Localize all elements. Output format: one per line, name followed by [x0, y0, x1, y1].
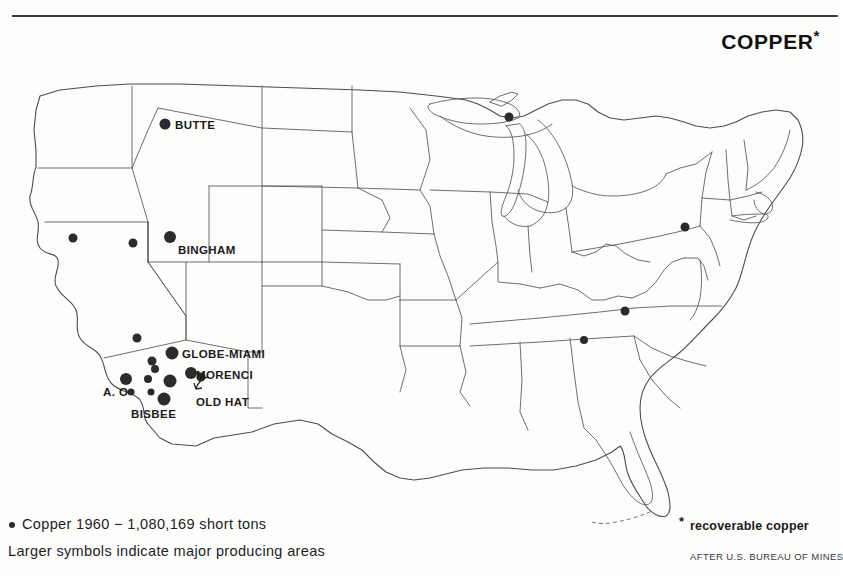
arizona-small-mine-2-symbol[interactable] — [148, 389, 155, 396]
michigan-keweenaw-mine-symbol[interactable] — [505, 113, 514, 122]
border-ia-mo — [382, 232, 434, 234]
border-sc-nc — [634, 336, 706, 366]
lake-erie-ontario-shore — [572, 174, 666, 196]
michigan-up — [440, 116, 552, 137]
border-mn-ia — [358, 188, 420, 190]
border-mn-wi — [410, 108, 430, 190]
border-id-wa-or — [132, 86, 148, 262]
border-ct-ny — [730, 200, 756, 220]
border-wi-il — [430, 190, 490, 192]
border-id-mt-wy — [132, 108, 158, 168]
globe-miami-mine-symbol[interactable] — [166, 347, 179, 360]
legend-line-1: Copper 1960 − 1,080,169 short tons — [22, 516, 266, 532]
legend-line-2: Larger symbols indicate major producing … — [8, 543, 325, 559]
border-tn-ms-al-ga — [470, 336, 634, 346]
nevada-arizona-mine-symbol[interactable] — [133, 334, 142, 343]
mine-label-morenci: MORENCI — [196, 369, 253, 381]
lake-michigan — [501, 124, 526, 216]
mine-label-bisbee: BISBEE — [131, 408, 176, 420]
florida-keys — [592, 512, 650, 524]
border-ia-il — [420, 190, 434, 234]
border-ok-tx — [262, 286, 400, 300]
mine-label-globe-miami: GLOBE-MIAMI — [182, 348, 265, 360]
border-nm-tx — [248, 262, 262, 408]
cape-cod — [754, 192, 773, 214]
source-credit: AFTER U.S. BUREAU OF MINES — [690, 551, 843, 562]
border-va-md-wv — [632, 258, 684, 298]
pennsylvania-mine-symbol[interactable] — [681, 223, 690, 232]
arizona-mid-mine-symbol[interactable] — [144, 375, 152, 383]
mine-symbols[interactable] — [69, 113, 690, 406]
border-ma-ct-ri — [702, 192, 762, 200]
border-in-mi — [490, 192, 548, 202]
butte-mine-symbol[interactable] — [160, 119, 171, 130]
arizona-small-mine-1-symbol[interactable] — [128, 389, 135, 396]
border-ny-vt-nh-ma — [700, 152, 712, 226]
border-il-ky — [456, 262, 540, 300]
border-ne-ia — [358, 188, 390, 232]
nevada-ely-mine-symbol[interactable] — [69, 234, 78, 243]
border-ne-ks — [322, 230, 382, 232]
mine-label-butte: BUTTE — [175, 119, 215, 131]
arizona-upper-mine-2-symbol[interactable] — [151, 365, 159, 373]
border-al-ga — [570, 338, 596, 440]
bingham-mine-symbol[interactable] — [164, 231, 176, 243]
border-la-ms — [460, 346, 470, 406]
border-pa-ny — [572, 226, 700, 252]
border-il-in — [490, 192, 498, 262]
border-nj-ny-pa — [700, 226, 720, 266]
border-ky-tn — [470, 308, 634, 324]
border-ny-lake-ontario — [666, 152, 712, 174]
border-ky-va-wv — [540, 284, 632, 300]
border-ks-ok — [322, 262, 400, 264]
legend-symbol-icon — [9, 522, 15, 528]
maine-coast — [746, 130, 790, 190]
border-mo-il-east — [434, 234, 456, 300]
arizona-upper-mine-1-symbol[interactable] — [148, 357, 157, 366]
border-nd-sd — [262, 128, 352, 132]
border-nd-mn — [352, 86, 358, 188]
border-wv-va-north — [572, 244, 650, 262]
chesapeake-bay — [690, 260, 702, 320]
border-ar-east — [456, 300, 462, 346]
arizona-ray-mine-symbol[interactable] — [164, 375, 177, 388]
border-ca-nv-diag — [148, 262, 186, 340]
florida-outline — [596, 432, 653, 505]
state-outlines — [30, 84, 803, 524]
border-ms-al — [520, 342, 528, 430]
border-nh-me — [744, 140, 748, 190]
mine-label-a-o: A. O — [103, 386, 128, 398]
mine-label-old-hat: OLD HAT — [196, 396, 249, 408]
mine-label-bingham: BINGHAM — [178, 244, 236, 256]
footnote-marker-icon: * — [679, 514, 684, 529]
border-oh-pa — [566, 208, 572, 252]
footnote-text: recoverable copper — [690, 519, 809, 533]
utah-west-mine-symbol[interactable] — [129, 239, 138, 248]
alabama-border-mine-symbol[interactable] — [580, 336, 588, 344]
keweenaw-peninsula — [490, 92, 518, 106]
bisbee-mine-symbol[interactable] — [158, 393, 171, 406]
border-in-oh — [528, 226, 532, 272]
tennessee-copperhill-symbol[interactable] — [621, 307, 630, 316]
arizona-ajo-mine-symbol[interactable] — [120, 373, 132, 385]
border-nc-va — [634, 306, 722, 308]
border-vt-nh — [726, 150, 730, 200]
border-md-de — [684, 258, 708, 280]
